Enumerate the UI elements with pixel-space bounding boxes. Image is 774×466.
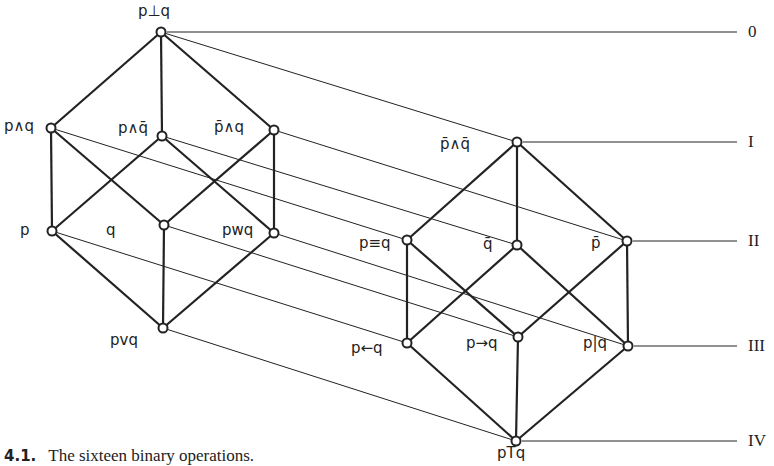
lattice-edge xyxy=(516,337,518,441)
caption-text: The sixteen binary operations. xyxy=(48,446,254,465)
node-p_to_q xyxy=(514,333,523,342)
lattice-edge xyxy=(517,245,628,346)
left-lattice-edges xyxy=(51,32,274,328)
lattice-edge xyxy=(163,225,164,328)
binary-operations-diagram: p⊥qp∧qp∧q̄p̄∧qpqpwqpvq p̄∧q̄p≡qq̄p̄p←qp→… xyxy=(0,0,774,466)
node-p_nand_q xyxy=(624,342,633,351)
lattice-edge xyxy=(51,128,52,231)
node-p_or_q xyxy=(159,324,168,333)
node-q xyxy=(160,221,169,230)
lattice-edge xyxy=(407,245,517,343)
node-label-p_from_q: p←q xyxy=(351,341,383,356)
node-label-p: p xyxy=(20,223,30,238)
lattice-edge xyxy=(518,241,627,337)
node-label-np_and_q: p̄∧q xyxy=(214,120,244,135)
correspondence-line xyxy=(163,328,516,441)
correspondence-lines xyxy=(51,32,628,441)
node-label-np: p̄ xyxy=(591,236,601,251)
node-np_and_q xyxy=(270,126,279,135)
lattice-edge xyxy=(407,240,518,337)
node-p_eq_q xyxy=(403,236,412,245)
node-p_bot_q xyxy=(157,28,166,37)
lattice-edge xyxy=(627,241,628,346)
node-p_from_q xyxy=(403,339,412,348)
node-label-q: q xyxy=(106,223,116,238)
node-label-p_or_q: pvq xyxy=(110,333,138,348)
node-label-p_top_q: pTq xyxy=(497,446,525,461)
node-np xyxy=(623,237,632,246)
lattice-edge xyxy=(52,231,163,328)
node-label-p_eq_q: p≡q xyxy=(359,236,391,251)
level-label: III xyxy=(748,337,765,354)
level-label: 0 xyxy=(748,23,757,40)
node-label-p_nand_q: p|q xyxy=(583,336,607,351)
lattice-edge xyxy=(407,343,516,441)
lattice-edge xyxy=(407,142,517,240)
right-lattice-edges xyxy=(407,142,628,441)
level-label: I xyxy=(748,133,754,150)
lattice-edge xyxy=(161,32,162,136)
lattice-diagram xyxy=(0,0,774,466)
node-label-p_and_q: p∧q xyxy=(4,119,34,134)
node-p_and_q xyxy=(47,124,56,133)
figure-caption: 4.1.The sixteen binary operations. xyxy=(4,446,254,466)
level-label: II xyxy=(748,232,759,249)
node-nq xyxy=(513,241,522,250)
correspondence-line xyxy=(52,231,407,343)
node-label-p_bot_q: p⊥q xyxy=(138,4,170,19)
node-label-nq: q̄ xyxy=(483,237,493,252)
level-label: IV xyxy=(748,432,766,449)
figure-number: 4.1. xyxy=(4,447,36,465)
lattice-edge xyxy=(163,233,274,328)
lattice-nodes xyxy=(47,28,633,446)
node-label-p_to_q: p→q xyxy=(466,336,498,351)
node-label-p_xor_q: pwq xyxy=(222,223,253,238)
lattice-edge xyxy=(51,128,164,225)
lattice-edge xyxy=(517,142,627,241)
lattice-edge xyxy=(51,32,161,128)
lattice-edge xyxy=(164,130,274,225)
node-p xyxy=(48,227,57,236)
node-label-np_and_nq: p̄∧q̄ xyxy=(440,137,470,152)
node-p_xor_q xyxy=(270,229,279,238)
node-p_and_nq xyxy=(158,132,167,141)
lattice-edge xyxy=(162,136,274,233)
lattice-edge xyxy=(52,136,162,231)
correspondence-line xyxy=(274,233,628,346)
lattice-edge xyxy=(161,32,274,130)
node-np_and_nq xyxy=(513,138,522,147)
node-label-p_and_nq: p∧q̄ xyxy=(118,121,148,136)
lattice-edge xyxy=(516,346,628,441)
